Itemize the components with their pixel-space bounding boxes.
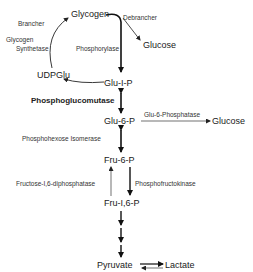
node-glycogen: Glycogen (71, 10, 109, 19)
node-udpglu: UDPGlu (37, 71, 70, 80)
enzyme-phosphorylase: Phosphorylase (76, 46, 119, 53)
enzyme-debrancher: Debrancher (123, 15, 157, 22)
node-fru-6-p: Fru-6-P (104, 156, 135, 165)
pathway-diagram: Glycogen Glucose UDPGlu Glu-I-P Glu-6-P … (0, 0, 253, 272)
node-lactate: Lactate (165, 261, 195, 270)
node-glucose-debrancher: Glucose (143, 41, 176, 50)
enzyme-glycogen-synthetase-line2: Synthetase (16, 46, 49, 53)
node-fru-1-6-p: Fru-I,6-P (104, 199, 140, 208)
enzyme-phosphoglucomutase: Phosphoglucomutase (31, 97, 115, 105)
enzyme-fructose-diphosphatase: Fructose-I,6-diphosphatase (16, 181, 95, 188)
enzyme-phosphohexose-isomerase: Phosphohexose Isomerase (22, 136, 101, 143)
enzyme-glu-6-phosphatase: Glu-6-Phosphatase (144, 112, 200, 119)
enzyme-glycogen-synthetase-line1: Glycogen (6, 37, 33, 44)
node-pyruvate: Pyruvate (97, 261, 133, 270)
node-glucose-phosphatase: Glucose (212, 117, 245, 126)
node-glu-1-p: Glu-I-P (104, 79, 133, 88)
enzyme-brancher: Brancher (18, 21, 44, 28)
enzyme-phosphofructokinase: Phosphofructokinase (135, 181, 196, 188)
node-glu-6-p: Glu-6-P (104, 117, 135, 126)
